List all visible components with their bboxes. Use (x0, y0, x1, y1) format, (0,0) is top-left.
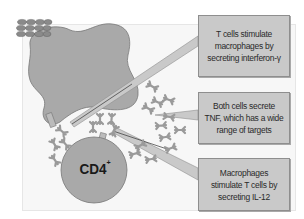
callout-ifn-gamma: T cells stimulate macrophages by secreti… (198, 15, 290, 77)
cell-layer-icon (17, 19, 53, 36)
cd4-label: CD4+ (71, 160, 120, 177)
cd4-superscript: + (106, 158, 110, 167)
callout-il-12: Macrophages stimulate T cells by secreti… (198, 158, 290, 211)
callout-pointer-2 (155, 110, 198, 120)
macrophage-cell (29, 24, 139, 124)
callout-tnf: Both cells secrete TNF, which has a wide… (198, 92, 290, 144)
